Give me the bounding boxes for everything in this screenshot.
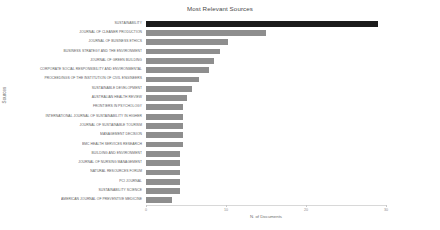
x-axis-tick-label: 30: [384, 208, 388, 212]
bar: [146, 151, 180, 157]
y-axis-tick-label: AMERICAN JOURNAL OF PREVENTIVE MEDICINE: [61, 198, 142, 202]
y-axis-tick-label: JOURNAL OF NURSING MANAGEMENT: [78, 161, 142, 165]
y-axis-tick-label: PROCEEDINGS OF THE INSTITUTION OF CIVIL …: [44, 77, 142, 81]
bar: [146, 77, 199, 83]
bar: [146, 197, 172, 203]
bar: [146, 179, 180, 185]
plot-area: [146, 19, 386, 205]
bar: [146, 95, 187, 101]
x-axis-tick-mark: [306, 205, 307, 207]
x-axis-line: [146, 205, 386, 206]
bar-chart-figure: Most Relevant Sources Sources SUSTAINABI…: [0, 0, 440, 230]
y-axis-tick-label: MANAGEMENT DECISION: [100, 133, 142, 137]
x-axis-tick-label: 0: [145, 208, 147, 212]
bar: [146, 170, 180, 176]
bar: [146, 58, 214, 64]
y-axis-tick-label: SUSTAINABILITY: [115, 22, 142, 26]
y-axis-tick-label: BUILDING AND ENVIRONMENT: [92, 152, 142, 156]
x-axis-tick-mark: [226, 205, 227, 207]
bar: [146, 160, 180, 166]
y-axis-tick-label: NATURAL RESOURCES FORUM: [90, 170, 142, 174]
x-axis-title: N. of Documents: [146, 214, 386, 219]
y-axis-tick-labels: SUSTAINABILITYJOURNAL OF CLEANER PRODUCT…: [14, 19, 144, 205]
bar: [146, 86, 192, 92]
x-axis-tick-label: 10: [224, 208, 228, 212]
bar: [146, 49, 220, 55]
bar: [146, 104, 183, 110]
bar: [146, 114, 183, 120]
x-axis-tick-mark: [386, 205, 387, 207]
y-axis-tick-label: INTERNATIONAL JOURNAL OF SUSTAINABILITY …: [45, 115, 142, 119]
y-axis-tick-label: AUSTRALIAN HEALTH REVIEW: [92, 96, 142, 100]
bar: [146, 39, 228, 45]
y-axis-tick-label: BUSINESS STRATEGY AND THE ENVIRONMENT: [64, 49, 142, 53]
bar: [146, 21, 378, 27]
x-axis-tick-mark: [146, 205, 147, 207]
y-axis-tick-label: JOURNAL OF GREEN BUILDING: [90, 59, 142, 63]
y-axis-tick-label: SUSTAINABLE DEVELOPMENT: [92, 87, 142, 91]
bar: [146, 132, 183, 138]
y-axis-tick-label: SUSTAINABILITY SCIENCE: [98, 189, 142, 193]
y-axis-tick-label: CORPORATE SOCIAL RESPONSIBILITY AND ENVI…: [40, 68, 142, 72]
bar: [146, 30, 266, 36]
y-axis-tick-label: JOURNAL OF BUSINESS ETHICS: [89, 40, 142, 44]
bar: [146, 142, 183, 148]
y-axis-title: Sources: [2, 75, 7, 115]
bar: [146, 67, 209, 73]
y-axis-tick-label: JOURNAL OF CLEANER PRODUCTION: [79, 31, 142, 35]
y-axis-tick-label: FRONTIERS IN PSYCHOLOGY: [93, 105, 142, 109]
chart-title: Most Relevant Sources: [0, 5, 440, 12]
y-axis-tick-label: PCI JOURNAL: [119, 180, 142, 184]
y-axis-tick-label: BMC HEALTH SERVICES RESEARCH: [82, 142, 142, 146]
bar: [146, 123, 183, 129]
y-axis-tick-label: JOURNAL OF SUSTAINABLE TOURISM: [79, 124, 142, 128]
x-axis-tick-label: 20: [304, 208, 308, 212]
bar: [146, 188, 180, 194]
